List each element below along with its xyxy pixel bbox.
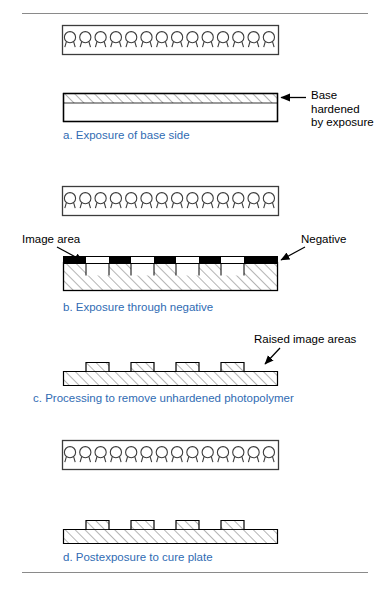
label-image-area: Image area [22,233,80,247]
step-d-group [63,441,279,544]
lamp-icon-row-d [64,447,274,463]
lamp-icon-row-a [64,32,274,48]
caption-step-c: c. Processing to remove unhardened photo… [33,392,294,406]
plate-step-b [64,263,278,291]
arrow-negative [281,247,305,260]
relief-plate-step-c [64,363,278,386]
step-c-group [64,348,281,386]
bottom-divider-rule [22,572,368,573]
step-b-group [57,187,305,291]
lamp-bank-a [63,26,279,55]
relief-plate-step-d [64,521,278,544]
label-raised-image-areas: Raised image areas [254,333,356,347]
label-base-hardened: Base hardened by exposure [311,89,374,130]
caption-step-d: d. Postexposure to cure plate [63,551,213,565]
step-a-group [63,26,307,122]
photopolymer-process-figure: a. Exposure of base side Base hardened b… [0,0,390,595]
arrow-image-area [57,247,83,261]
lamp-bank-b [63,187,279,216]
arrow-raised-image-areas [265,348,280,364]
plate-step-a [64,94,278,122]
top-divider-rule [22,13,368,14]
caption-step-a: a. Exposure of base side [63,129,190,143]
lamp-icon-row-b [64,193,274,209]
negative-strip [64,257,278,264]
label-negative: Negative [301,233,346,247]
caption-step-b: b. Exposure through negative [63,301,213,315]
lamp-bank-d [63,441,279,470]
